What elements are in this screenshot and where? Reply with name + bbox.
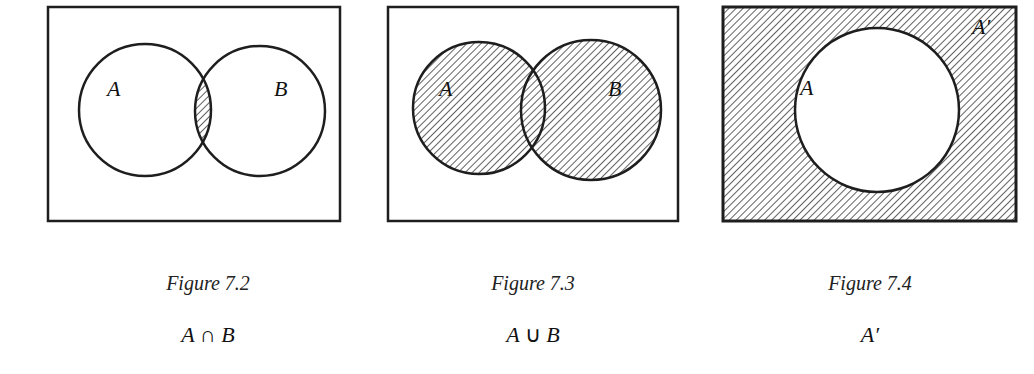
label-b: B (274, 76, 287, 101)
venn-union-diagram: A B (340, 0, 685, 260)
figure-7-2: A B Figure 7.2 A ∩ B (0, 0, 345, 374)
union-symbol: ∪ (525, 322, 541, 347)
label-a: A (437, 76, 453, 101)
label-a: A (105, 76, 121, 101)
formula-operand-a: A (181, 322, 194, 347)
label-a: A (798, 75, 814, 100)
label-complement: A′ (970, 14, 991, 39)
set-formula: A ∩ B (58, 322, 358, 348)
formula-operand-b: B (546, 322, 559, 347)
formula-operand-a: A (506, 322, 519, 347)
intersection-symbol: ∩ (200, 322, 216, 347)
set-formula: A ∪ B (383, 322, 683, 348)
figure-7-4: A A′ Figure 7.4 A′ (680, 0, 1034, 374)
venn-intersection-diagram: A B (0, 0, 345, 260)
figure-caption: Figure 7.3 (383, 272, 683, 295)
circle-a (795, 28, 959, 192)
figure-caption: Figure 7.2 (58, 272, 358, 295)
set-formula: A′ (720, 322, 1020, 348)
label-b: B (608, 76, 621, 101)
figure-caption: Figure 7.4 (720, 272, 1020, 295)
venn-complement-diagram: A A′ (680, 0, 1034, 260)
formula-operand-b: B (221, 322, 234, 347)
figure-7-3: A B Figure 7.3 A ∪ B (340, 0, 685, 374)
